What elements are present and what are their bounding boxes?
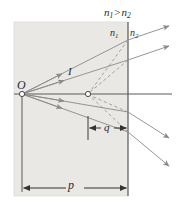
image-distance-label: q [104, 122, 110, 133]
index-relation-label: n1>n2 [104, 7, 131, 18]
optics-refraction-diagram: n1>n2 n1 n2 O I q p [0, 0, 179, 210]
image-point-label: I [68, 66, 72, 77]
medium-n2-label: n2 [130, 28, 138, 38]
refracted-rays [128, 26, 169, 166]
object-point-label: O [17, 79, 26, 91]
object-point-marker [19, 91, 24, 96]
image-point-marker [85, 91, 90, 96]
diagram-canvas [0, 0, 179, 210]
medium-n1-label: n1 [110, 28, 118, 38]
object-distance-label: p [68, 179, 74, 191]
